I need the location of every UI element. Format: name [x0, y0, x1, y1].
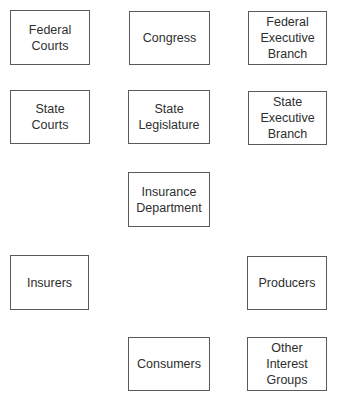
- node-label: Insurers: [27, 275, 72, 291]
- node-label: State Courts: [32, 101, 69, 133]
- node-label: Federal Executive Branch: [260, 14, 314, 62]
- node-congress: Congress: [129, 11, 210, 65]
- node-label: State Executive Branch: [260, 94, 314, 142]
- node-consumers: Consumers: [128, 337, 210, 391]
- node-state-executive-branch: State Executive Branch: [248, 91, 327, 145]
- node-label: Insurance Department: [136, 184, 201, 216]
- node-label: Congress: [143, 30, 197, 46]
- node-label: Federal Courts: [29, 22, 71, 54]
- node-label: State Legislature: [138, 101, 199, 133]
- node-federal-courts: Federal Courts: [10, 10, 90, 65]
- node-producers: Producers: [247, 256, 327, 310]
- node-label: Consumers: [137, 356, 201, 372]
- diagram-canvas: Federal Courts Congress Federal Executiv…: [0, 0, 341, 405]
- node-other-interest-groups: Other Interest Groups: [247, 337, 327, 391]
- node-insurers: Insurers: [10, 255, 89, 310]
- node-insurance-department: Insurance Department: [128, 172, 210, 227]
- node-state-courts: State Courts: [10, 90, 90, 144]
- node-label: Other Interest Groups: [266, 340, 308, 388]
- node-federal-executive-branch: Federal Executive Branch: [248, 11, 327, 65]
- node-state-legislature: State Legislature: [128, 90, 210, 144]
- node-label: Producers: [259, 275, 316, 291]
